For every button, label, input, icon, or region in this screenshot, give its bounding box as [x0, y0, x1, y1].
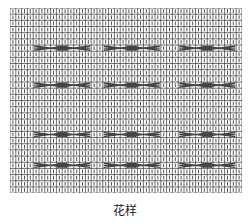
- knitting-chart: [10, 8, 242, 197]
- chart-caption: 花样: [0, 201, 249, 218]
- stitch-grid: [10, 8, 242, 193]
